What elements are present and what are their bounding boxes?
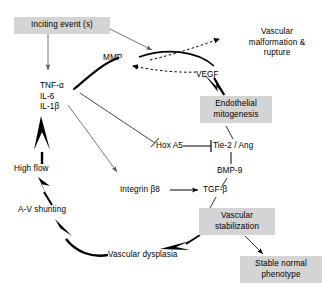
edge-endothelial-to-tie2 xyxy=(226,126,233,139)
edge-vegf-to-mmp-solid xyxy=(139,52,214,66)
edge-shunting-to-highflow xyxy=(44,192,52,205)
edge-dysplasia-to-shunting-head xyxy=(55,219,72,246)
node-il6: IL-6 xyxy=(40,92,64,103)
node-stable-normal-phenotype-line1: Stable normal xyxy=(245,259,317,270)
node-il1-beta: IL-1β xyxy=(40,102,64,113)
node-vegf[interactable]: VEGF xyxy=(196,70,219,81)
node-stable-normal-phenotype-line2: phenotype xyxy=(245,270,317,281)
edge-tgfb-to-stabilization xyxy=(210,197,216,208)
edge-cytokines-to-hoxa5 xyxy=(80,93,155,143)
node-bmp9[interactable]: BMP-9 xyxy=(217,166,243,177)
edge-vegf-to-mmp-dashed xyxy=(133,66,196,72)
node-cytokines[interactable]: TNF-α IL-6 IL-1β xyxy=(40,81,64,113)
node-endothelial-mitogenesis[interactable]: Endothelial mitogenesis xyxy=(200,96,272,123)
node-hox-a5[interactable]: Hox A5 xyxy=(156,141,183,152)
edge-vegf-to-vascular-malformation xyxy=(150,39,219,60)
edge-shunting-to-highflow-head xyxy=(38,177,50,197)
node-endothelial-mitogenesis-line1: Endothelial xyxy=(205,99,267,110)
node-mmp[interactable]: MMP xyxy=(103,53,122,64)
node-vascular-malformation[interactable]: Vascular malformation & rupture xyxy=(239,27,315,59)
edge-inciting-to-mmp xyxy=(108,28,152,50)
node-vascular-malformation-line3: rupture xyxy=(239,48,315,59)
node-tgf-beta[interactable]: TGF-β xyxy=(203,185,227,196)
edge-vegf-to-endothelial xyxy=(214,78,224,95)
edge-cytokines-to-integrin xyxy=(68,105,117,172)
node-inciting-event[interactable]: Inciting event (s) xyxy=(14,17,110,34)
edge-dysplasia-to-shunting xyxy=(66,239,108,256)
node-integrin-b8[interactable]: Integrin β8 xyxy=(120,185,160,196)
node-tnf-alpha: TNF-α xyxy=(40,81,64,92)
edge-stabilization-to-dysplasia xyxy=(186,235,200,244)
node-vascular-stabilization-line2: stabilization xyxy=(204,222,270,233)
node-vascular-malformation-line1: Vascular xyxy=(239,27,315,38)
node-vascular-stabilization[interactable]: Vascular stabilization xyxy=(199,208,275,235)
node-tie2-ang[interactable]: Tie-2 / Ang xyxy=(213,141,253,152)
node-endothelial-mitogenesis-line2: mitogenesis xyxy=(205,110,267,121)
node-vascular-stabilization-line1: Vascular xyxy=(204,211,270,222)
edge-highflow-to-cytokines-head xyxy=(34,116,50,150)
edge-stabilization-to-stable xyxy=(245,236,263,254)
node-vascular-malformation-line2: malformation & xyxy=(239,38,315,49)
node-vascular-dysplasia[interactable]: Vascular dysplasia xyxy=(108,250,177,261)
node-stable-normal-phenotype[interactable]: Stable normal phenotype xyxy=(240,256,322,283)
node-av-shunting[interactable]: A-V shunting xyxy=(18,205,66,216)
node-high-flow[interactable]: High flow xyxy=(14,164,49,175)
edge-stabilization-to-dysplasia-head xyxy=(160,241,190,250)
